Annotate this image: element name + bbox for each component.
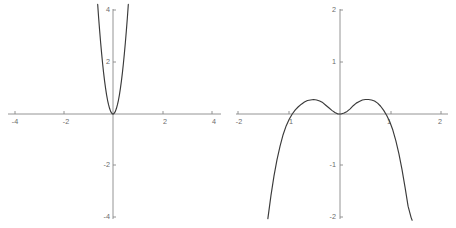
right-xtick-label--2: -2 — [236, 117, 242, 126]
left-x-tick-labels: -4 -2 2 4 — [12, 117, 216, 126]
right-x-tick-labels: -2 1 1 2 — [236, 117, 442, 126]
right-ytick-label-2: 2 — [332, 5, 336, 14]
left-plot-axes — [8, 9, 221, 219]
left-ytick-label-2: 2 — [106, 57, 110, 66]
left-ytick-label-4: 4 — [106, 5, 110, 14]
right-ytick-label-1: 1 — [332, 57, 336, 66]
left-xtick-label-4: 4 — [212, 117, 216, 126]
left-y-tick-labels: 4 2 -2 -4 — [104, 5, 110, 221]
right-ytick-label--2: -2 — [330, 212, 336, 221]
left-ytick-label--2: -2 — [104, 160, 110, 169]
two-plot-figure: -4 -2 2 4 4 2 -2 -4 — [0, 0, 456, 228]
left-ytick-label--4: -4 — [104, 212, 110, 221]
left-plot-canvas: -4 -2 2 4 4 2 -2 -4 — [0, 0, 228, 228]
right-ytick-label--1: -1 — [330, 160, 336, 169]
left-xtick-label--2: -2 — [63, 117, 69, 126]
left-xtick-label--4: -4 — [12, 117, 18, 126]
right-sextic-plot: -2 1 1 2 2 1 -1 -2 — [228, 0, 456, 228]
right-plot-canvas: -2 1 1 2 2 1 -1 -2 — [228, 0, 456, 228]
left-parabola-plot: -4 -2 2 4 4 2 -2 -4 — [0, 0, 228, 228]
left-xtick-label-2: 2 — [163, 117, 167, 126]
right-xtick-label-2: 2 — [438, 117, 442, 126]
